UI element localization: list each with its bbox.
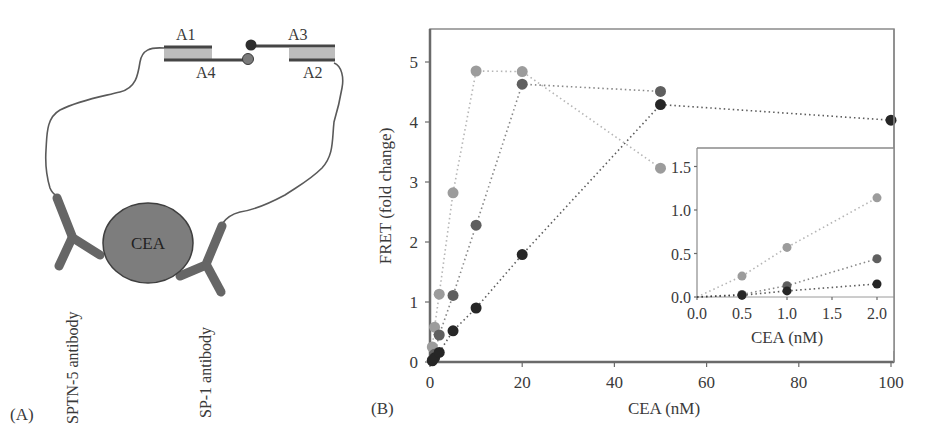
inset-x-axis-title: CEA (nM): [751, 328, 823, 347]
y-tick-label: 0.5: [671, 246, 691, 263]
x-tick-label: 2.0: [867, 305, 887, 322]
panel-a-label: (A): [10, 405, 34, 424]
y-tick-label: 0.0: [671, 289, 691, 306]
series-line-light: [430, 71, 661, 362]
panel-b-chart: 020406080100012345 FRET (fold change) CE…: [371, 29, 904, 418]
x-tick-label: 80: [790, 373, 807, 392]
sptn5-antibody-icon: [57, 198, 100, 266]
data-point-medium: [434, 330, 445, 341]
data-point-dark: [471, 303, 482, 314]
data-point-light: [448, 187, 459, 198]
y-tick-label: 1.0: [671, 202, 691, 219]
data-point-dark: [873, 279, 882, 288]
x-tick-label: 60: [698, 373, 715, 392]
main-y-axis-title: FRET (fold change): [376, 128, 395, 265]
data-point-medium: [873, 254, 882, 263]
x-tick-label: 40: [606, 373, 623, 392]
data-point-dark: [783, 286, 792, 295]
y-tick-label: 0: [410, 353, 419, 372]
y-tick-label: 1: [410, 293, 419, 312]
data-point-dark: [434, 347, 445, 358]
x-tick-label: 0.5: [732, 305, 752, 322]
data-point-medium: [448, 290, 459, 301]
data-point-dark: [655, 99, 666, 110]
label-a2: A2: [303, 64, 323, 81]
x-tick-label: 100: [878, 373, 904, 392]
y-tick-label: 1.5: [671, 159, 691, 176]
sptn5-antibody-label: SPTN-5 antibody: [64, 312, 82, 424]
data-point-dark: [448, 325, 459, 336]
data-point-medium: [517, 79, 528, 90]
figure: A1 A4 A3 A2 CEA SPTN-5 antibody SP-1 ant…: [0, 0, 927, 448]
cea-label: CEA: [131, 234, 166, 253]
x-tick-label: 0: [426, 373, 435, 392]
x-tick-label: 1.0: [777, 305, 797, 322]
data-point-light: [873, 193, 882, 202]
panel-a-diagram: A1 A4 A3 A2 CEA SPTN-5 antibody SP-1 ant…: [10, 26, 343, 424]
data-point-medium: [471, 220, 482, 231]
x-tick-label: 20: [514, 373, 531, 392]
data-point-dark: [517, 249, 528, 260]
label-a3: A3: [288, 26, 308, 43]
data-point-light: [783, 243, 792, 252]
data-point-light: [655, 163, 666, 174]
data-point-light: [738, 272, 747, 281]
data-point-medium: [655, 86, 666, 97]
fluorophore-acceptor: [243, 54, 254, 65]
y-tick-label: 5: [410, 53, 419, 72]
y-tick-label: 2: [410, 233, 419, 252]
data-point-dark: [738, 291, 747, 300]
label-a4: A4: [196, 64, 216, 81]
data-point-light: [471, 66, 482, 77]
x-tick-label: 1.5: [822, 305, 842, 322]
y-tick-label: 3: [410, 173, 419, 192]
fluorophore-donor: [246, 40, 257, 51]
x-tick-label: 0.0: [687, 305, 707, 322]
duplex-a3-a2-fill: [289, 48, 335, 59]
y-tick-label: 4: [410, 113, 419, 132]
sp1-antibody-label: SP-1 antibody: [197, 327, 215, 418]
label-a1: A1: [176, 26, 196, 43]
data-point-light: [434, 289, 445, 300]
main-x-axis-title: CEA (nM): [628, 399, 700, 418]
tether-strand: [46, 48, 343, 224]
data-point-dark: [886, 115, 897, 126]
panel-b-label: (B): [371, 399, 394, 418]
duplex-a1-a4-fill: [164, 48, 212, 59]
data-point-light: [517, 66, 528, 77]
